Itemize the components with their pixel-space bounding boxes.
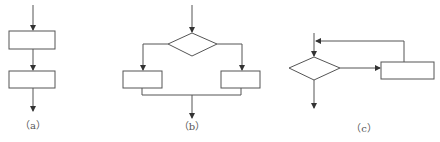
panel-a-sequence: （a） <box>9 5 55 131</box>
process-box <box>381 62 434 79</box>
process-box-right <box>221 71 260 88</box>
decision-diamond <box>289 57 340 80</box>
panel-a-label: （a） <box>20 120 46 131</box>
feedback-loop-line <box>316 41 404 62</box>
branch-left <box>143 44 168 70</box>
panel-c-label: （c） <box>351 123 377 134</box>
process-box-left <box>123 71 162 88</box>
panel-b-label: （b） <box>179 121 205 132</box>
process-box-1 <box>9 31 55 49</box>
flowchart-diagram: （a） （b） （c） <box>0 0 440 142</box>
process-box-2 <box>9 71 55 88</box>
decision-diamond <box>168 33 217 56</box>
branch-right <box>217 44 242 70</box>
panel-c-loop: （c） <box>289 33 434 134</box>
panel-b-selection: （b） <box>123 5 260 132</box>
merge-line <box>142 88 241 95</box>
